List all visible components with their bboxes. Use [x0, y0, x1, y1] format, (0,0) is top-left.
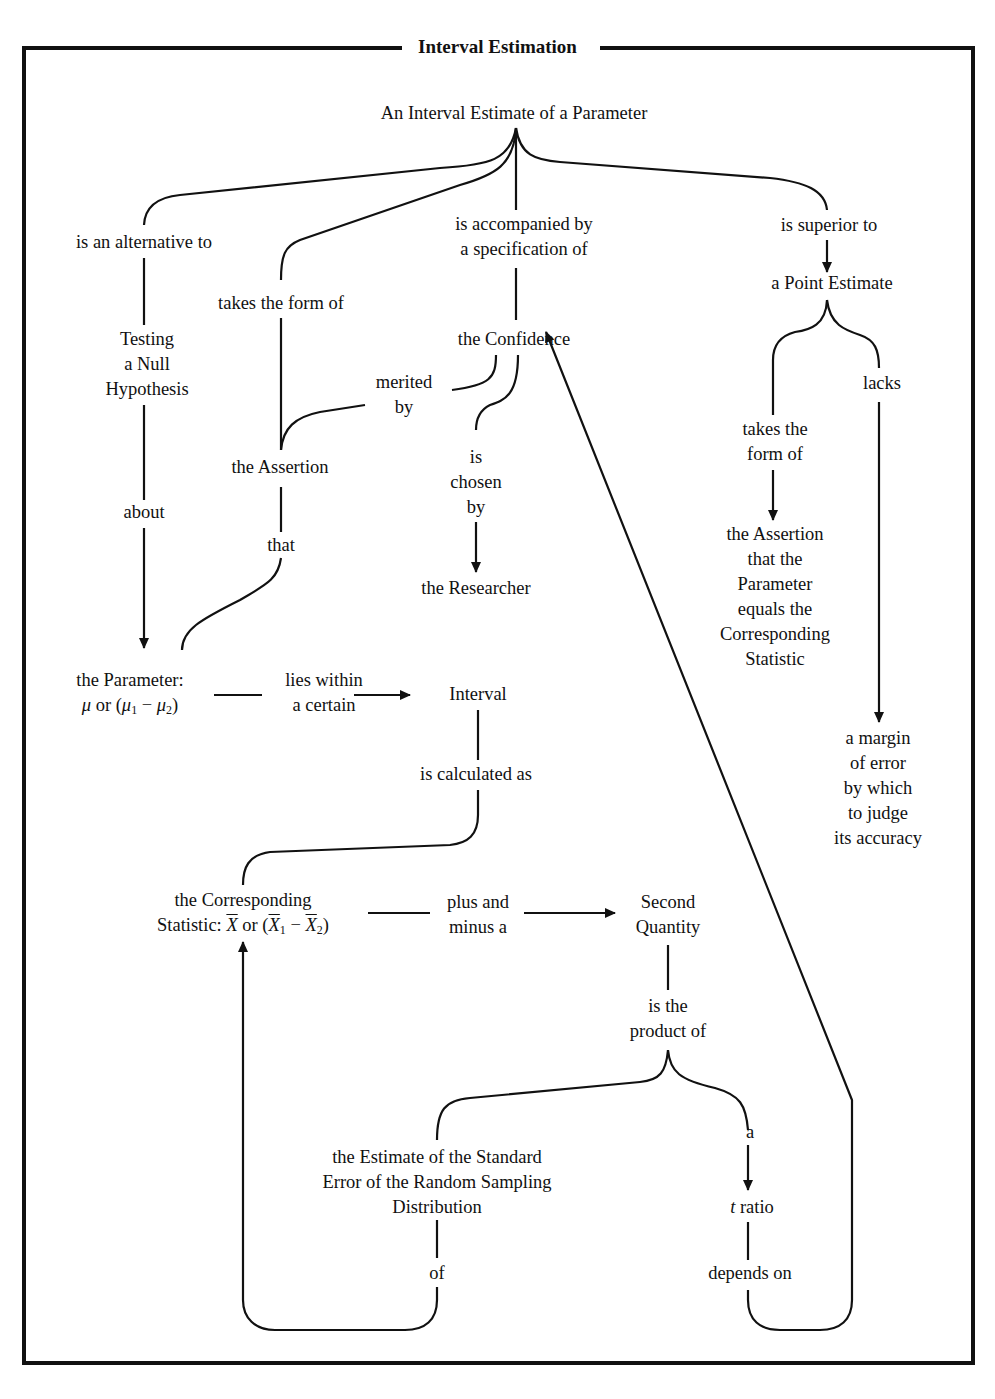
edge-that-parameter — [182, 558, 281, 650]
edge-confidence-merited — [452, 355, 496, 390]
node-second-quantity[interactable]: SecondQuantity — [636, 890, 701, 940]
edge-merited-assertion — [281, 405, 365, 450]
node-interval[interactable]: Interval — [449, 682, 507, 707]
link-superior: is superior to — [781, 213, 878, 238]
edge-root-alternative — [144, 128, 516, 225]
node-parameter[interactable]: the Parameter: μ or (μ1 − μ2) — [76, 668, 183, 718]
edge-calculated-statistic — [243, 790, 478, 885]
node-margin-of-error[interactable]: a marginof errorby whichto judgeits accu… — [834, 726, 922, 851]
link-a: a — [746, 1120, 754, 1145]
link-depends-on: depends on — [708, 1261, 792, 1286]
edge-product-split-right — [668, 1050, 748, 1130]
link-alternative: is an alternative to — [76, 230, 212, 255]
link-chosen: ischosenby — [450, 445, 501, 520]
link-about: about — [123, 500, 164, 525]
edge-depends-confidence[interactable] — [546, 332, 852, 1330]
node-assertion[interactable]: the Assertion — [231, 455, 328, 480]
link-lacks: lacks — [863, 371, 901, 396]
link-pe-takes-form: takes theform of — [742, 417, 807, 467]
link-accompanied: is accompanied bya specification of — [455, 212, 593, 262]
edge-point-estimate-lacks — [827, 300, 879, 368]
statistic-symbols: Statistic: X or (X1 − X2) — [157, 913, 329, 938]
node-root[interactable]: An Interval Estimate of a Parameter — [381, 101, 648, 126]
node-assertion-equals-statistic[interactable]: the Assertionthat theParameterequals the… — [720, 522, 830, 672]
node-researcher[interactable]: the Researcher — [421, 576, 530, 601]
link-lies-within: lies withina certain — [285, 668, 363, 718]
node-t-ratio[interactable]: t ratio — [730, 1195, 774, 1220]
edge-confidence-chosen — [476, 355, 518, 430]
node-point-estimate[interactable]: a Point Estimate — [771, 271, 892, 296]
edge-of-statistic[interactable] — [243, 942, 437, 1330]
link-takes-form: takes the form of — [218, 291, 344, 316]
link-calculated: is calculated as — [420, 762, 532, 787]
link-that: that — [267, 533, 295, 558]
link-merited: meritedby — [376, 370, 433, 420]
node-corresponding-statistic[interactable]: the Corresponding Statistic: X or (X1 − … — [157, 888, 329, 938]
link-plus-minus: plus andminus a — [447, 890, 509, 940]
edge-point-estimate-takes-form — [773, 300, 827, 415]
node-standard-error[interactable]: the Estimate of the StandardError of the… — [322, 1145, 551, 1220]
link-of: of — [429, 1261, 444, 1286]
edge-root-superior — [516, 128, 827, 210]
node-confidence[interactable]: the Confidence — [458, 327, 571, 352]
edge-product-split-left — [437, 1050, 668, 1140]
parameter-symbols: μ or (μ1 − μ2) — [76, 693, 183, 718]
node-testing-null-hypothesis[interactable]: Testinga NullHypothesis — [105, 327, 188, 402]
link-product: is theproduct of — [630, 994, 707, 1044]
